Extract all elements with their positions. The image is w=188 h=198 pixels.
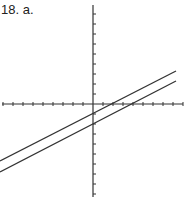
lower-line bbox=[0, 81, 176, 172]
coordinate-graph bbox=[0, 0, 188, 198]
upper-line bbox=[0, 71, 176, 161]
